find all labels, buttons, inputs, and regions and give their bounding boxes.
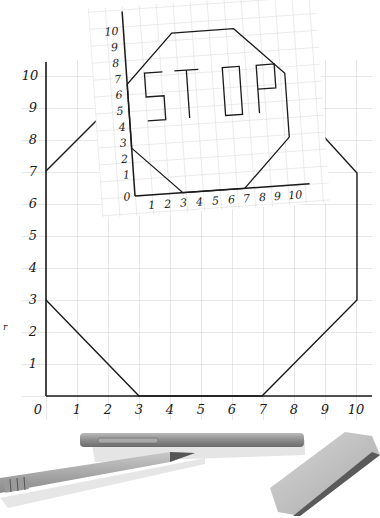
scene: 10 9 8 7 6 5 4 3 2 1 0 1 2 3 4 5 6 7 8 9… bbox=[0, 0, 380, 518]
svg-text:1: 1 bbox=[73, 402, 81, 417]
svg-text:9: 9 bbox=[111, 41, 119, 54]
svg-text:8: 8 bbox=[258, 191, 266, 204]
svg-text:6: 6 bbox=[29, 196, 37, 211]
svg-text:8: 8 bbox=[112, 57, 120, 70]
svg-text:1: 1 bbox=[148, 199, 156, 212]
svg-text:0: 0 bbox=[34, 402, 42, 417]
svg-text:3: 3 bbox=[29, 292, 37, 307]
svg-text:9: 9 bbox=[29, 100, 37, 115]
svg-text:10: 10 bbox=[104, 25, 119, 39]
svg-text:8: 8 bbox=[290, 402, 298, 417]
svg-text:2: 2 bbox=[163, 198, 172, 212]
svg-text:2: 2 bbox=[119, 152, 128, 166]
pen bbox=[80, 433, 305, 462]
svg-text:5: 5 bbox=[29, 228, 37, 243]
svg-text:1: 1 bbox=[29, 356, 37, 371]
svg-text:4: 4 bbox=[195, 195, 204, 209]
svg-text:6: 6 bbox=[228, 193, 236, 206]
svg-text:10: 10 bbox=[22, 68, 39, 83]
svg-text:0: 0 bbox=[123, 190, 131, 203]
svg-text:4: 4 bbox=[117, 120, 126, 134]
svg-text:2: 2 bbox=[103, 402, 112, 417]
svg-text:7: 7 bbox=[114, 73, 122, 86]
svg-text:5: 5 bbox=[197, 402, 205, 417]
svg-text:7: 7 bbox=[29, 164, 38, 179]
stray-mark: r bbox=[3, 322, 8, 332]
svg-text:2: 2 bbox=[28, 324, 37, 339]
svg-text:9: 9 bbox=[273, 190, 281, 203]
svg-text:3: 3 bbox=[180, 196, 188, 209]
svg-text:10: 10 bbox=[348, 402, 365, 417]
svg-text:10: 10 bbox=[288, 188, 303, 202]
svg-text:7: 7 bbox=[243, 192, 251, 205]
svg-text:4: 4 bbox=[28, 260, 37, 275]
svg-text:1: 1 bbox=[123, 168, 131, 181]
svg-text:3: 3 bbox=[119, 136, 127, 149]
svg-text:9: 9 bbox=[321, 402, 329, 417]
svg-text:6: 6 bbox=[228, 402, 236, 417]
svg-text:6: 6 bbox=[115, 89, 123, 102]
svg-text:3: 3 bbox=[135, 402, 143, 417]
svg-text:8: 8 bbox=[29, 132, 37, 147]
svg-text:5: 5 bbox=[212, 194, 220, 207]
svg-text:7: 7 bbox=[259, 402, 268, 417]
svg-text:4: 4 bbox=[165, 402, 174, 417]
small-grid-sheet: 10 9 8 7 6 5 4 3 2 1 0 1 2 3 4 5 6 7 8 9… bbox=[88, 0, 330, 218]
svg-text:5: 5 bbox=[116, 105, 124, 118]
